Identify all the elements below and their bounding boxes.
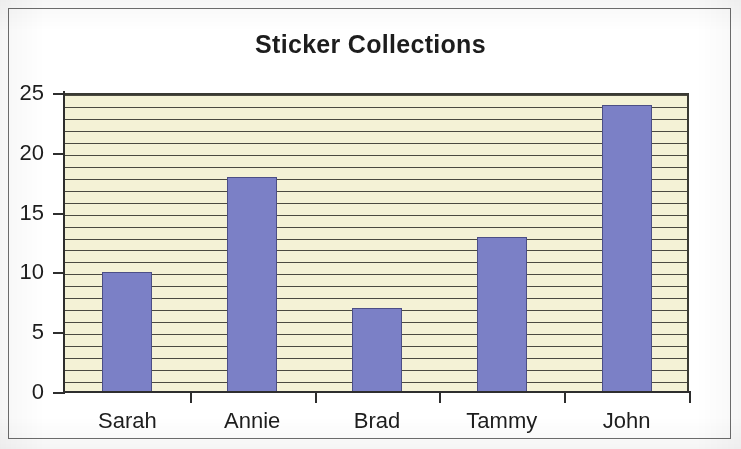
gridline: [65, 107, 687, 108]
gridline: [65, 131, 687, 132]
gridline: [65, 143, 687, 144]
bar: [352, 308, 402, 392]
gridline: [65, 227, 687, 228]
bar: [602, 105, 652, 392]
y-axis-label: 0: [0, 379, 44, 405]
plot-area: [65, 93, 689, 392]
y-axis-label: 5: [0, 319, 44, 345]
gridline: [65, 119, 687, 120]
x-axis-tick-mark: [315, 392, 317, 403]
plot-area-wrapper: [65, 93, 689, 392]
gridline: [65, 203, 687, 204]
gridline: [65, 262, 687, 263]
chart-title: Sticker Collections: [0, 30, 741, 59]
gridline: [65, 95, 687, 96]
x-axis-tick-mark: [439, 392, 441, 403]
gridline: [65, 191, 687, 192]
y-axis-label: 20: [0, 140, 44, 166]
bar: [227, 177, 277, 392]
x-axis-tick-mark: [689, 392, 691, 403]
gridline: [65, 155, 687, 156]
category-label: Annie: [224, 408, 280, 434]
gridline: [65, 298, 687, 299]
gridline: [65, 274, 687, 275]
y-axis-label: 10: [0, 259, 44, 285]
category-label: Tammy: [466, 408, 537, 434]
y-axis-label: 25: [0, 80, 44, 106]
bar: [477, 237, 527, 392]
x-axis-tick-mark: [564, 392, 566, 403]
x-axis-line: [63, 391, 691, 393]
category-label: John: [603, 408, 651, 434]
gridline: [65, 215, 687, 216]
bar: [102, 272, 152, 392]
y-axis-label: 15: [0, 200, 44, 226]
category-label: Sarah: [98, 408, 157, 434]
category-label: Brad: [354, 408, 400, 434]
gridline: [65, 250, 687, 251]
gridline: [65, 167, 687, 168]
x-axis-tick-mark: [190, 392, 192, 403]
gridline: [65, 239, 687, 240]
gridline: [65, 179, 687, 180]
gridline: [65, 286, 687, 287]
chart-page: Sticker Collections 0510152025 SarahAnni…: [0, 0, 741, 449]
